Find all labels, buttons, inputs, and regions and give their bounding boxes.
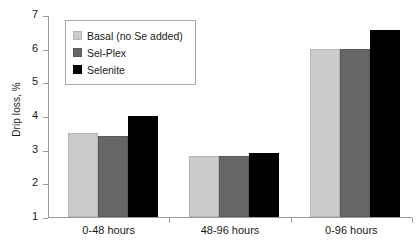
bar bbox=[340, 49, 370, 217]
bar bbox=[249, 153, 279, 217]
y-axis-line bbox=[48, 16, 49, 218]
bar bbox=[68, 133, 98, 217]
y-axis-tick-label: 5 bbox=[32, 75, 38, 87]
y-axis-tick-label: 2 bbox=[32, 176, 38, 188]
bar bbox=[219, 156, 249, 217]
y-axis-tick-label: 6 bbox=[32, 42, 38, 54]
bar bbox=[128, 116, 158, 217]
legend-item-label: Sel-Plex bbox=[87, 47, 126, 59]
y-axis-tick-label: 7 bbox=[32, 8, 38, 20]
y-axis-tick: 1 bbox=[43, 218, 48, 219]
legend-item: Basal (no Se added) bbox=[73, 27, 188, 44]
legend-item-label: Basal (no Se added) bbox=[87, 30, 183, 42]
x-axis-category-label: 0-96 hours bbox=[325, 224, 378, 236]
bar bbox=[98, 136, 128, 217]
legend-swatch-icon bbox=[73, 48, 82, 57]
y-axis-tick-label: 1 bbox=[32, 210, 38, 222]
x-axis-category-label: 48-96 hours bbox=[201, 224, 260, 236]
y-axis-tick-label: 3 bbox=[32, 143, 38, 155]
y-axis-title: Drip loss, % bbox=[11, 50, 22, 170]
y-axis-tick: 6 bbox=[43, 50, 48, 51]
x-axis-tick bbox=[169, 218, 170, 223]
bar bbox=[370, 30, 400, 217]
x-axis-tick bbox=[291, 218, 292, 223]
bar-chart: Drip loss, % 1234567 Basal (no Se added)… bbox=[0, 0, 419, 251]
legend-item: Sel-Plex bbox=[73, 44, 188, 61]
legend-item: Selenite bbox=[73, 61, 188, 78]
y-axis-tick-label: 4 bbox=[32, 109, 38, 121]
x-axis-tick bbox=[412, 218, 413, 223]
bar bbox=[189, 156, 219, 217]
chart-legend: Basal (no Se added)Sel-PlexSelenite bbox=[65, 20, 196, 85]
y-axis-tick: 4 bbox=[43, 117, 48, 118]
y-axis-tick: 2 bbox=[43, 184, 48, 185]
legend-swatch-icon bbox=[73, 65, 82, 74]
x-axis-line bbox=[48, 217, 412, 218]
legend-item-label: Selenite bbox=[87, 64, 125, 76]
y-axis-tick: 3 bbox=[43, 151, 48, 152]
bar bbox=[310, 49, 340, 217]
y-axis-tick: 5 bbox=[43, 83, 48, 84]
legend-swatch-icon bbox=[73, 31, 82, 40]
y-axis-tick: 7 bbox=[43, 16, 48, 17]
x-axis-category-label: 0-48 hours bbox=[82, 224, 135, 236]
